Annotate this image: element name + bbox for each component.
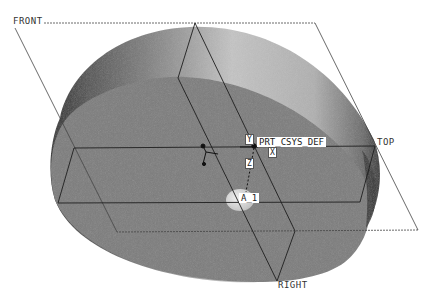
csys-label[interactable]: PRT_CSYS_DEF [257, 137, 326, 147]
datum-plane-right-label[interactable]: RIGHT [278, 280, 308, 290]
csys-axis-x-tag: X [268, 147, 277, 158]
model-scene[interactable] [0, 0, 446, 294]
datum-plane-top-label[interactable]: TOP [377, 137, 395, 147]
csys-axis-z-tag: Z [245, 158, 254, 169]
csys-axis-y-tag: Y [245, 134, 254, 145]
datum-axis-label[interactable]: A_1 [239, 193, 259, 203]
model-viewport[interactable]: FRONT TOP RIGHT PRT_CSYS_DEF Y X Z A_1 [0, 0, 446, 294]
datum-plane-front-label[interactable]: FRONT [13, 16, 43, 26]
